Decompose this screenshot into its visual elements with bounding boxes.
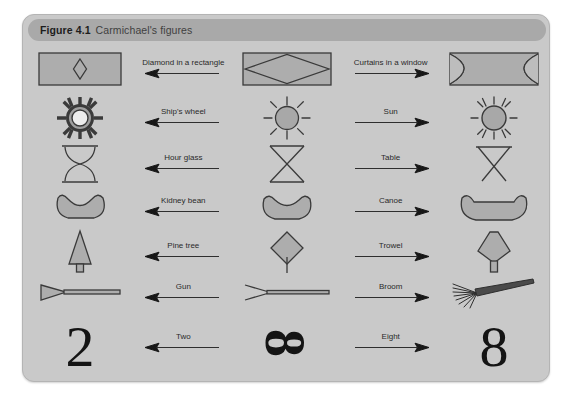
middle-figure-cell-4 (230, 190, 343, 224)
ambiguous-spoked-circle-icon (260, 95, 314, 141)
left-arrow-cell-5: Pine tree (136, 242, 230, 262)
right-arrow-label-6: Broom (379, 283, 403, 291)
arrow-left-icon (143, 342, 223, 353)
ships-wheel-icon (53, 95, 107, 141)
right-arrow-label-2: Sun (384, 108, 398, 116)
arrow-left-icon (143, 251, 223, 262)
left-figure-cell-5 (23, 229, 136, 275)
right-arrow-label-7: Eight (382, 333, 400, 341)
ambiguous-arrow-line-icon (243, 278, 331, 308)
ambiguous-rectangle-with-lens-icon (241, 48, 333, 90)
gun-icon (38, 278, 122, 308)
ambiguous-numeral-glyph: 8 (254, 329, 316, 357)
arrow-right-icon (351, 163, 431, 174)
middle-figure-cell-1 (230, 48, 343, 90)
left-figure-cell-4 (23, 190, 136, 224)
right-arrow-label-5: Trowel (379, 242, 403, 250)
hour-glass-icon (56, 143, 104, 185)
middle-figure-cell-5 (230, 229, 343, 275)
middle-figure-cell-6 (230, 278, 343, 308)
right-arrow-label-1: Curtains in a window (354, 59, 428, 67)
left-arrow-label-1: Diamond in a rectangle (142, 59, 224, 67)
sun-icon (467, 95, 521, 141)
right-arrow-label-3: Table (381, 154, 400, 162)
figure-caption: Carmichael's figures (96, 24, 193, 36)
right-figure-cell-2 (438, 95, 550, 141)
right-figure-cell-1 (438, 48, 550, 90)
table-row: Ship's wheel (23, 95, 550, 141)
left-arrow-cell-3: Hour glass (136, 154, 230, 174)
middle-figure-cell-3 (230, 143, 343, 185)
right-arrow-cell-6: Broom (344, 283, 438, 303)
left-figure-cell-2 (23, 95, 136, 141)
left-arrow-label-5: Pine tree (167, 242, 199, 250)
middle-figure-cell-2 (230, 95, 343, 141)
broom-icon (451, 277, 537, 309)
left-arrow-label-3: Hour glass (164, 154, 202, 162)
canoe-icon (456, 190, 532, 224)
right-figure-cell-3 (438, 143, 550, 185)
figures-grid: Diamond in a rectangle Curtains in a win… (23, 43, 550, 381)
ambiguous-crossed-lines-icon (263, 143, 311, 185)
figure-header: Figure 4.1 Carmichael's figures (28, 19, 546, 41)
pine-tree-icon (60, 229, 100, 275)
right-arrow-label-4: Canoe (379, 197, 403, 205)
arrow-right-icon (351, 251, 431, 262)
arrow-right-icon (351, 206, 431, 217)
numeral-eight-icon: 8 (464, 314, 524, 372)
left-arrow-label-6: Gun (176, 283, 191, 291)
right-arrow-cell-2: Sun (344, 108, 438, 128)
ambiguous-crescent-icon (255, 190, 319, 224)
kidney-bean-icon (48, 190, 112, 224)
arrow-left-icon (143, 117, 223, 128)
right-figure-cell-5 (438, 229, 550, 275)
numeral-eight-glyph: 8 (480, 314, 509, 379)
left-arrow-cell-1: Diamond in a rectangle (136, 59, 230, 79)
right-figure-cell-7: 8 (438, 314, 550, 372)
table-row: Gun Broom (23, 276, 550, 310)
arrow-left-icon (143, 206, 223, 217)
left-arrow-cell-4: Kidney bean (136, 197, 230, 217)
arrow-right-icon (351, 117, 431, 128)
left-figure-cell-3 (23, 143, 136, 185)
table-row: 2 Two 8 (23, 313, 550, 373)
table-row: Pine tree Trowel (23, 229, 550, 275)
right-arrow-cell-3: Table (344, 154, 438, 174)
right-arrow-cell-1: Curtains in a window (344, 59, 438, 79)
right-arrow-cell-4: Canoe (344, 197, 438, 217)
table-row: Kidney bean Canoe (23, 186, 550, 228)
left-arrow-label-7: Two (176, 333, 191, 341)
arrow-right-icon (351, 342, 431, 353)
figure-panel: Figure 4.1 Carmichael's figures Diamond … (22, 14, 550, 382)
right-figure-cell-6 (438, 277, 550, 309)
left-figure-cell-6 (23, 278, 136, 308)
right-figure-cell-4 (438, 190, 550, 224)
arrow-left-icon (143, 163, 223, 174)
arrow-left-icon (143, 68, 223, 79)
ambiguous-diamond-with-stem-icon (266, 229, 308, 275)
ambiguous-numeral-icon: 8 (257, 314, 317, 372)
table-row: Diamond in a rectangle Curtains in a win… (23, 45, 550, 93)
trowel-icon (473, 229, 515, 275)
left-arrow-label-4: Kidney bean (161, 197, 205, 205)
left-arrow-cell-7: Two (136, 333, 230, 353)
table-row: Hour glass Table (23, 142, 550, 186)
middle-figure-cell-7: 8 (230, 314, 343, 372)
left-arrow-cell-2: Ship's wheel (136, 108, 230, 128)
left-arrow-label-2: Ship's wheel (161, 108, 206, 116)
curtains-in-window-icon (448, 48, 540, 90)
table-icon (470, 143, 518, 185)
arrow-right-icon (351, 68, 431, 79)
left-figure-cell-7: 2 (23, 314, 136, 372)
diamond-in-rectangle-icon (37, 49, 123, 89)
left-figure-cell-1 (23, 49, 136, 89)
right-arrow-cell-5: Trowel (344, 242, 438, 262)
figure-number: Figure 4.1 (40, 24, 91, 36)
numeral-two-icon: 2 (50, 314, 110, 372)
arrow-right-icon (351, 292, 431, 303)
arrow-left-icon (143, 292, 223, 303)
numeral-two-glyph: 2 (65, 314, 94, 379)
left-arrow-cell-6: Gun (136, 283, 230, 303)
right-arrow-cell-7: Eight (344, 333, 438, 353)
